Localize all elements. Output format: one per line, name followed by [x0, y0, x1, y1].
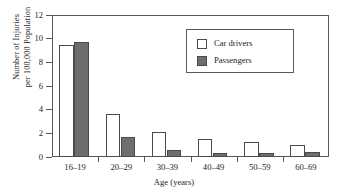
y-axis-title-text: Number of Injuries per 100,000 Populatio… [12, 7, 32, 88]
x-tick-label: 40–49 [189, 163, 239, 172]
y-tick-label: 0 [26, 153, 43, 162]
legend-label-passengers: Passengers [214, 56, 252, 65]
legend-label-car-drivers: Car drivers [214, 39, 252, 48]
x-tick-label: 50–59 [235, 163, 285, 172]
legend-item-car-drivers: Car drivers [197, 35, 293, 52]
x-tick-mark [237, 157, 238, 162]
legend-item-passengers: Passengers [197, 52, 293, 69]
filled-square-swatch-icon [197, 56, 207, 66]
x-tick-label: 16–19 [50, 163, 100, 172]
chart-legend: Car drivers Passengers [186, 29, 294, 73]
y-axis-title: Number of Injuries per 100,000 Populatio… [11, 0, 41, 120]
x-axis-title: Age (years) [0, 178, 348, 187]
x-tick-label: 20–29 [96, 163, 146, 172]
hollow-square-swatch-icon [197, 39, 207, 49]
x-tick-mark [191, 157, 192, 162]
x-tick-mark [144, 157, 145, 162]
bar-chart-figure: Number of Injuries per 100,000 Populatio… [0, 0, 348, 195]
x-tick-label: 60–69 [281, 163, 331, 172]
y-tick-label: 2 [26, 129, 43, 138]
x-tick-label: 30–39 [142, 163, 192, 172]
x-tick-mark [283, 157, 284, 162]
x-tick-mark [98, 157, 99, 162]
